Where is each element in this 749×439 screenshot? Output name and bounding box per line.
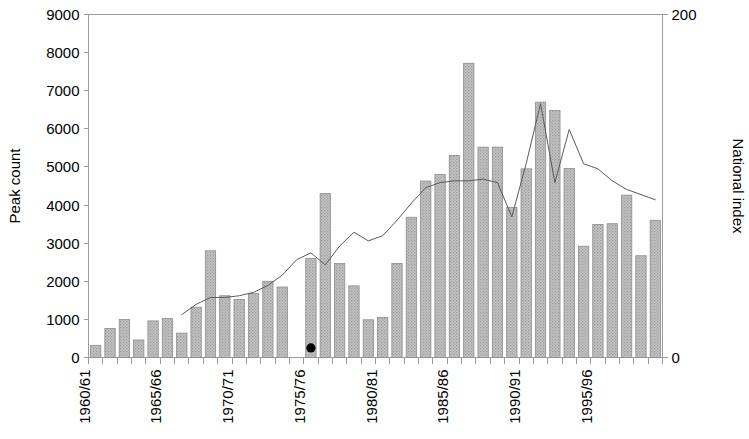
left-axis-tick-label: 7000 — [46, 82, 79, 99]
bar — [91, 345, 101, 357]
plot-frame — [89, 15, 663, 358]
bar — [378, 317, 388, 357]
plot-border — [89, 15, 663, 358]
bar — [550, 111, 560, 358]
chart-container: 0100020003000400050006000700080009000Pea… — [0, 0, 749, 439]
bar — [220, 296, 230, 358]
bar — [564, 168, 574, 357]
bar — [119, 319, 129, 357]
bar — [449, 156, 459, 358]
bar — [277, 287, 287, 358]
bar — [406, 217, 416, 357]
bar — [162, 319, 172, 358]
left-axis-tick-label: 6000 — [46, 120, 79, 137]
x-axis-tick-label: 1970/71 — [219, 370, 236, 424]
x-axis-tick-label: 1960/61 — [76, 370, 93, 424]
bar-series — [91, 63, 661, 357]
bar — [334, 263, 344, 357]
missing-data-dot-icon — [306, 343, 315, 352]
left-axis-tick-label: 0 — [71, 349, 79, 366]
x-axis: 1960/611965/661970/711975/761980/811985/… — [76, 358, 663, 424]
bar — [148, 321, 158, 358]
x-axis-tick-label: 1985/86 — [434, 370, 451, 424]
bar — [234, 300, 244, 358]
left-axis-tick-label: 8000 — [46, 44, 79, 61]
bar — [464, 63, 474, 357]
bar — [435, 175, 445, 358]
peak-count-national-index-chart: 0100020003000400050006000700080009000Pea… — [0, 0, 749, 439]
bar — [621, 195, 631, 357]
bar — [535, 102, 545, 357]
left-axis-tick-label: 5000 — [46, 158, 79, 175]
bar — [392, 263, 402, 357]
right-axis-tick-label: 200 — [672, 6, 697, 23]
bar — [593, 224, 603, 357]
bar — [349, 286, 359, 358]
bar — [263, 281, 273, 357]
x-axis-tick-label: 1980/81 — [363, 370, 380, 424]
bar — [363, 320, 373, 358]
bar — [492, 147, 502, 357]
bar — [507, 207, 517, 357]
bar — [248, 293, 258, 357]
bar — [650, 220, 660, 357]
left-axis-title: Peak count — [6, 148, 23, 224]
left-axis-tick-label: 3000 — [46, 235, 79, 252]
bar — [421, 181, 431, 357]
right-axis-title: National index — [730, 138, 747, 234]
bar — [636, 256, 646, 358]
bar — [521, 169, 531, 358]
left-axis-tick-label: 4000 — [46, 197, 79, 214]
bar — [191, 307, 201, 357]
bar — [607, 224, 617, 358]
bar — [205, 251, 215, 358]
bar — [177, 333, 187, 357]
left-axis-tick-label: 2000 — [46, 273, 79, 290]
bar — [306, 258, 316, 357]
x-axis-tick-label: 1990/91 — [506, 370, 523, 424]
left-axis-tick-label: 9000 — [46, 6, 79, 23]
x-axis-tick-label: 1975/76 — [291, 370, 308, 424]
bar — [320, 194, 330, 358]
left-axis-tick-label: 1000 — [46, 311, 79, 328]
bar — [578, 246, 588, 357]
right-axis-tick-label: 0 — [672, 349, 680, 366]
x-axis-tick-label: 1965/66 — [147, 370, 164, 424]
bar — [134, 340, 144, 358]
right-axis: 0200National index — [663, 6, 748, 366]
bar — [105, 329, 115, 358]
x-axis-tick-label: 1995/96 — [578, 370, 595, 424]
left-axis: 0100020003000400050006000700080009000Pea… — [6, 6, 89, 366]
